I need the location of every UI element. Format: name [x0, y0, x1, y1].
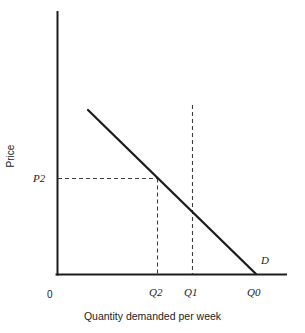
- demand-curve-label: D: [261, 255, 269, 266]
- x-axis-title: Quantity demanded per week: [0, 311, 305, 322]
- y-axis-title-text: Price: [6, 145, 16, 168]
- demand-curve-line: [88, 110, 256, 274]
- quantity-q1-label: Q1: [184, 287, 197, 298]
- demand-curve-plot: [0, 0, 305, 333]
- quantity-q2-label: Q2: [149, 287, 162, 298]
- demand-curve-figure: Price Quantity demanded per week 0 P2 Q2…: [0, 0, 305, 333]
- y-axis-title: Price: [4, 126, 18, 186]
- quantity-q0-label: Q0: [247, 287, 260, 298]
- price-p2-label: P2: [33, 173, 45, 184]
- origin-label: 0: [47, 290, 53, 300]
